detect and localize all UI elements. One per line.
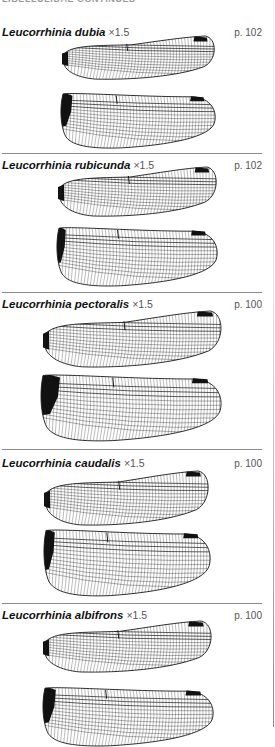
section-divider: [2, 603, 262, 604]
pterostigma: [190, 96, 204, 101]
page-reference[interactable]: p. 100: [234, 610, 262, 621]
pterostigma: [185, 691, 201, 696]
forewing-illustration: [58, 167, 218, 217]
pterostigma: [197, 312, 213, 317]
page-reference[interactable]: p. 102: [234, 160, 262, 171]
hindwing-illustration: [43, 527, 211, 597]
page-reference[interactable]: p. 100: [234, 458, 262, 469]
forewing-illustration: [62, 36, 216, 80]
species-title: Leucorrhinia pectoralis×1.5: [2, 298, 153, 310]
scale-label: ×1.5: [124, 457, 145, 469]
scale-label: ×1.5: [132, 298, 153, 310]
pterostigma: [183, 533, 198, 538]
forewing-illustration: [44, 471, 210, 526]
section-divider: [2, 449, 262, 450]
pterostigma: [188, 622, 203, 627]
hindwing-illustration: [40, 372, 222, 442]
section-divider: [2, 292, 262, 293]
species-name: Leucorrhinia pectoralis: [2, 298, 129, 310]
pterostigma: [191, 231, 206, 236]
forewing-illustration: [43, 311, 223, 368]
hindwing-illustration: [42, 685, 214, 747]
species-name: Leucorrhinia caudalis: [2, 457, 121, 469]
species-title: Leucorrhinia caudalis×1.5: [2, 457, 145, 469]
hindwing-illustration: [60, 91, 216, 149]
page-reference[interactable]: p. 100: [234, 299, 262, 310]
species-title: Leucorrhinia albifrons×1.5: [2, 609, 147, 621]
page-reference[interactable]: p. 102: [234, 27, 262, 38]
pterostigma: [192, 378, 208, 383]
scale-label: ×1.5: [126, 609, 147, 621]
pterostigma: [193, 36, 207, 41]
running-head: LIBELLULIDAE continued: [2, 0, 136, 4]
pterostigma: [195, 168, 210, 173]
page-gutter: [273, 0, 274, 727]
forewing-illustration: [43, 621, 213, 673]
hindwing-illustration: [56, 225, 218, 287]
species-name: Leucorrhinia albifrons: [2, 609, 123, 621]
section-divider: [2, 153, 262, 154]
